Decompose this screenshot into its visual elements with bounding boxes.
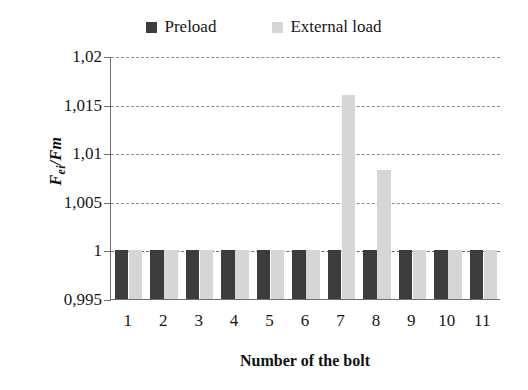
bar-preload [115,250,129,299]
y-axis-tick-label: 0,995 [38,291,102,308]
bar-preload [221,250,235,299]
y-axis-tick-label: 1 [38,242,102,259]
y-axis-tick-mark [104,300,111,301]
bar-preload [257,250,271,299]
bar-group [111,57,146,299]
bar-external-load [271,250,285,299]
bar-external-load [129,250,143,299]
x-axis-tick-label: 11 [465,312,500,329]
x-axis-tick-label: 10 [429,312,464,329]
bar-external-load [235,250,249,299]
x-axis-tick-label: 6 [287,312,322,329]
x-axis-tick-label: 2 [145,312,180,329]
x-axis-tick-label: 9 [394,312,429,329]
bar-external-load [484,250,498,299]
x-axis-tick-label: 5 [252,312,287,329]
y-axis-title: Fei/Fm [47,101,69,221]
legend-entry-preload: Preload [146,18,216,36]
bar-group [288,57,323,299]
legend-label-preload: Preload [164,18,216,36]
bar-external-load [377,170,391,299]
plot-area [110,57,500,300]
bar-group [395,57,430,299]
x-axis-tick-label: 3 [181,312,216,329]
bar-group [359,57,394,299]
bar-group [466,57,501,299]
bar-external-load [164,250,178,299]
bar-external-load [200,250,214,299]
bar-group [430,57,465,299]
chart-legend: Preload External load [0,14,528,40]
x-axis-tick-label: 1 [110,312,145,329]
bar-preload [150,250,164,299]
bar-preload [434,250,448,299]
x-axis-tick-label: 7 [323,312,358,329]
bar-external-load [413,250,427,299]
bar-group [217,57,252,299]
bar-group [253,57,288,299]
x-axis-tick-label: 8 [358,312,393,329]
legend-swatch-preload [146,22,157,33]
bar-series-container [111,57,500,299]
bar-preload [328,250,342,299]
bar-group [146,57,181,299]
x-axis-tick-label: 4 [216,312,251,329]
bar-preload [470,250,484,299]
bar-preload [292,250,306,299]
chart-figure: Preload External load 1,021,0151,011,005… [0,0,528,390]
bar-preload [399,250,413,299]
legend-swatch-external-load [272,22,283,33]
bar-external-load [448,250,462,299]
y-axis-tick-label: 1,02 [38,48,102,65]
bar-preload [186,250,200,299]
bar-group [182,57,217,299]
bar-preload [363,250,377,299]
bar-external-load [342,95,356,299]
bar-group [324,57,359,299]
bar-external-load [306,250,320,299]
legend-label-external-load: External load [290,18,381,36]
legend-entry-external-load: External load [272,18,381,36]
x-axis-title: Number of the bolt [110,352,500,370]
